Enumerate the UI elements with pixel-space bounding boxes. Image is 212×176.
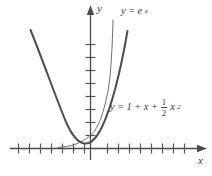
x-axis-label: x	[198, 155, 203, 166]
taylor-label-fraction-variable: x	[170, 102, 175, 113]
fraction-numerator: 1	[161, 98, 167, 107]
x-axis	[10, 145, 207, 152]
fraction-denominator: 2	[161, 107, 167, 117]
exp-label-exponent: x	[145, 8, 148, 15]
curve-label-taylor-polynomial: y = 1 + x + 1 2 x2	[110, 98, 181, 117]
exp-label-lhs: y	[121, 6, 126, 17]
y-axis	[87, 5, 94, 160]
taylor-label-fraction-exponent: 2	[177, 104, 181, 111]
taylor-approximation-figure: y x y = ex y = 1 + x + 1 2 x2	[0, 0, 212, 176]
taylor-label-plus-first: +	[134, 102, 141, 113]
curve-label-exponential: y = ex	[121, 6, 148, 17]
y-axis-label: y	[97, 3, 102, 14]
plot-area	[0, 0, 212, 176]
exp-label-base: e	[138, 6, 143, 17]
taylor-label-fraction: 1 2	[161, 98, 167, 117]
taylor-label-equals: =	[117, 102, 124, 113]
curve-taylor-polynomial	[31, 30, 128, 144]
exp-label-equals: =	[128, 6, 135, 17]
taylor-label-linear: x	[144, 102, 149, 113]
taylor-label-lhs: y	[110, 102, 115, 113]
taylor-label-plus-second: +	[151, 102, 158, 113]
taylor-label-constant: 1	[127, 102, 132, 113]
